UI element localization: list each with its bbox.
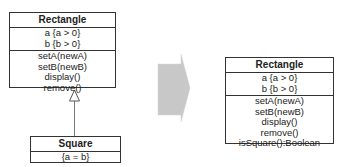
attribute: b {b > 0} bbox=[10, 39, 115, 50]
class-name: Square bbox=[31, 137, 120, 152]
operation: setA(newA) bbox=[10, 51, 115, 62]
operation: remove() bbox=[10, 83, 115, 94]
attribute: a {a > 0} bbox=[10, 28, 115, 39]
attribute: a {a > 0} bbox=[226, 73, 333, 84]
operation: display() bbox=[10, 72, 115, 83]
class-name: Rectangle bbox=[226, 58, 333, 73]
operation: display() bbox=[226, 117, 333, 128]
operations-compartment: setA(newA) setB(newB) display() remove()… bbox=[226, 96, 333, 150]
attribute: b {b > 0} bbox=[226, 84, 333, 95]
operation: isSquare():Boolean bbox=[226, 138, 333, 149]
rectangle-class-after: Rectangle a {a > 0} b {b > 0} setA(newA)… bbox=[225, 57, 334, 144]
class-name: Rectangle bbox=[10, 13, 115, 28]
transform-arrow-icon bbox=[158, 54, 190, 122]
rectangle-class-before: Rectangle a {a > 0} b {b > 0} setA(newA)… bbox=[9, 12, 116, 88]
attributes-compartment: a {a > 0} b {b > 0} bbox=[10, 28, 115, 51]
operations-compartment: setA(newA) setB(newB) display() remove() bbox=[10, 51, 115, 94]
operation: setA(newA) bbox=[226, 96, 333, 107]
attributes-compartment: a {a > 0} b {b > 0} bbox=[226, 73, 333, 96]
square-class: Square {a = b} bbox=[30, 136, 121, 163]
attributes-compartment: {a = b} bbox=[31, 152, 120, 164]
constraint: {a = b} bbox=[31, 152, 120, 163]
